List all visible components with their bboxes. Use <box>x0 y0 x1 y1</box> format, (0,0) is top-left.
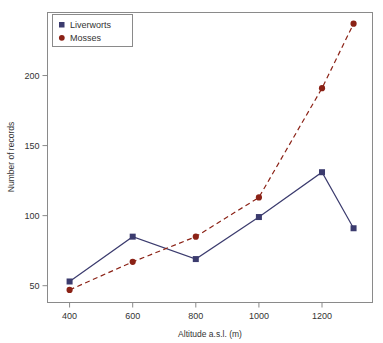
data-point-marker-mosses <box>66 287 72 293</box>
x-tick-label: 800 <box>188 311 203 321</box>
data-point-marker-liverworts <box>256 214 262 220</box>
legend-label-liverworts: Liverworts <box>70 20 112 30</box>
y-axis-ticks: 50100150200 <box>24 71 47 291</box>
data-point-marker-liverworts <box>193 256 199 262</box>
data-point-marker-liverworts <box>67 278 73 284</box>
data-point-marker-mosses <box>319 85 325 91</box>
y-tick-label: 100 <box>24 211 39 221</box>
legend-square-marker-icon <box>59 22 65 28</box>
y-tick-label: 200 <box>24 71 39 81</box>
chart-legend: LiverwortsMosses <box>53 15 133 47</box>
y-tick-label: 50 <box>29 281 39 291</box>
data-point-marker-liverworts <box>130 234 136 240</box>
x-axis-title: Altitude a.s.l. (m) <box>178 329 242 339</box>
series-line-mosses <box>70 24 354 290</box>
series-layer <box>66 21 356 293</box>
y-axis-title: Number of records <box>6 122 16 192</box>
chart-figure: 50100150200 40060080010001200 Altitude a… <box>0 0 383 343</box>
y-tick-label: 150 <box>24 141 39 151</box>
data-point-marker-mosses <box>256 194 262 200</box>
data-point-marker-mosses <box>193 234 199 240</box>
legend-circle-marker-icon <box>59 35 65 41</box>
x-tick-label: 600 <box>125 311 140 321</box>
legend-label-mosses: Mosses <box>70 33 102 43</box>
data-point-marker-liverworts <box>351 225 357 231</box>
line-chart-plot: 50100150200 40060080010001200 Altitude a… <box>0 0 383 343</box>
plot-frame <box>48 13 373 303</box>
data-point-marker-mosses <box>130 259 136 265</box>
x-tick-label: 1000 <box>249 311 269 321</box>
x-tick-label: 1200 <box>312 311 332 321</box>
data-point-marker-mosses <box>350 21 356 27</box>
x-tick-label: 400 <box>62 311 77 321</box>
x-axis-ticks: 40060080010001200 <box>62 303 332 321</box>
data-point-marker-liverworts <box>319 169 325 175</box>
